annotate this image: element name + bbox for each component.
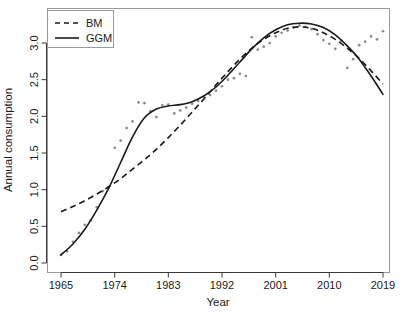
data-point [143, 102, 146, 105]
data-point [262, 45, 265, 48]
x-tick-label-2001: 2001 [263, 279, 287, 291]
data-point [328, 42, 331, 45]
data-point [268, 42, 271, 45]
x-tick-label-1974: 1974 [102, 279, 126, 291]
data-point [215, 89, 218, 92]
data-point [245, 75, 248, 78]
legend-label-ggm: GGM [86, 32, 112, 44]
chart-figure: 1965197419831992200120102019 0.00.51.01.… [0, 0, 407, 316]
y-tick-label-2.5: 2.5 [28, 72, 40, 87]
data-point [274, 35, 277, 38]
data-point [78, 232, 81, 235]
data-point [137, 101, 140, 104]
data-point [256, 48, 259, 51]
data-point [191, 103, 194, 106]
legend-label-bm: BM [86, 17, 103, 29]
y-tick-label-1.5: 1.5 [28, 145, 40, 160]
data-point [84, 224, 87, 227]
data-point [113, 147, 116, 150]
x-axis-title: Year [206, 296, 229, 308]
data-point [334, 48, 337, 51]
data-point [352, 58, 355, 61]
data-point [370, 35, 373, 38]
data-point [239, 72, 242, 75]
data-point [250, 36, 253, 39]
data-point [286, 29, 289, 32]
x-tick-label-1983: 1983 [156, 279, 180, 291]
data-point [185, 106, 188, 109]
data-point [233, 77, 236, 80]
data-point [125, 127, 128, 130]
x-tick-label-1965: 1965 [49, 279, 73, 291]
data-point [227, 78, 230, 81]
data-point [221, 85, 224, 88]
y-tick-label-1.0: 1.0 [28, 182, 40, 197]
data-point [119, 139, 122, 142]
y-axis-title: Annual consumption [2, 88, 14, 192]
x-tick-label-1992: 1992 [210, 279, 234, 291]
data-point [280, 31, 283, 34]
chart-legend: BM GGM [48, 11, 114, 48]
y-tick-label-3.0: 3.0 [28, 35, 40, 50]
y-tick-label-0.0: 0.0 [28, 255, 40, 270]
data-point [179, 109, 182, 112]
data-point [376, 38, 379, 41]
data-point [131, 120, 134, 123]
data-point [382, 30, 385, 33]
data-point [364, 40, 367, 43]
data-point [173, 112, 176, 115]
data-point [155, 116, 158, 119]
x-tick-label-2019: 2019 [371, 279, 395, 291]
y-tick-label-2.0: 2.0 [28, 109, 40, 124]
data-point [358, 44, 361, 47]
y-tick-label-0.5: 0.5 [28, 219, 40, 234]
data-point [346, 67, 349, 70]
data-point [316, 33, 319, 36]
x-tick-label-2010: 2010 [317, 279, 341, 291]
chart-canvas: 1965197419831992200120102019 0.00.51.01.… [0, 0, 407, 316]
data-point [322, 39, 325, 42]
